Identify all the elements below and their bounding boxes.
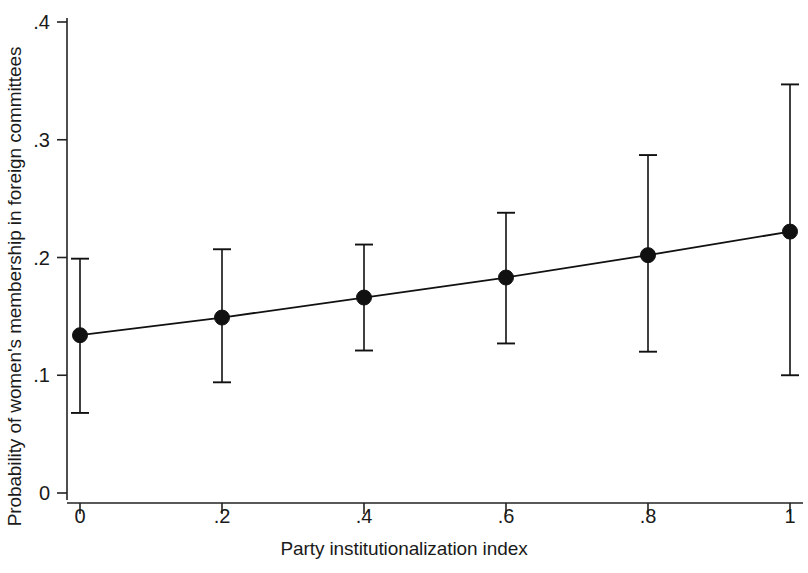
x-tick-label: .4: [356, 505, 373, 528]
data-point-marker: [215, 310, 230, 325]
y-tick-label: .3: [10, 128, 50, 151]
data-point-marker: [499, 270, 514, 285]
x-tick-label: .2: [214, 505, 231, 528]
series-polyline: [80, 232, 790, 336]
y-tick-label: .1: [10, 364, 50, 387]
x-axis-title: Party institutionalization index: [0, 538, 808, 560]
x-axis-ticks: [80, 503, 790, 514]
x-tick-label: .8: [640, 505, 657, 528]
plot-area: [0, 0, 808, 573]
data-point-marker: [357, 290, 372, 305]
chart-figure: Party institutionalization index Probabi…: [0, 0, 808, 573]
x-tick-label: 1: [784, 505, 795, 528]
y-tick-label: 0: [10, 482, 50, 505]
x-tick-label: .6: [498, 505, 515, 528]
y-axis-ticks: [57, 22, 67, 493]
y-tick-label: .2: [10, 246, 50, 269]
data-point-marker: [73, 328, 88, 343]
y-tick-label: .4: [10, 11, 50, 34]
data-point-markers: [73, 224, 798, 343]
data-point-marker: [641, 248, 656, 263]
data-point-marker: [783, 224, 798, 239]
series-line: [80, 232, 790, 336]
x-tick-label: 0: [74, 505, 85, 528]
